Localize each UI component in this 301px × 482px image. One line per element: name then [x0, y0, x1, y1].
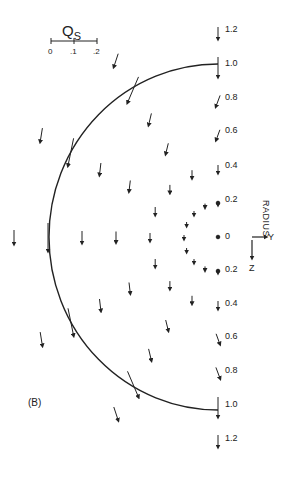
- radius-label: 1.0: [225, 400, 238, 409]
- scale-tick-1: .1: [70, 47, 77, 56]
- vector-arrow: [149, 113, 152, 125]
- radius-label: 0.2: [225, 265, 238, 274]
- vector-arrow: [40, 128, 42, 142]
- panel-label: (B): [28, 397, 41, 408]
- axis-y-label: Y: [268, 232, 274, 242]
- vector-arrow: [40, 332, 42, 346]
- vector-field-plot: [0, 0, 301, 482]
- vector-arrow: [114, 54, 118, 67]
- radius-label: 0.8: [225, 366, 238, 375]
- quantity-label: QS: [62, 22, 81, 42]
- vector-arrow: [68, 138, 74, 165]
- radius-label: 1.0: [225, 59, 238, 68]
- radius-label: 1.2: [225, 434, 238, 443]
- vector-arrow: [166, 143, 169, 154]
- vector-arrow: [216, 334, 220, 344]
- grid-point: [216, 235, 220, 239]
- scale-tick-0: 0: [48, 47, 52, 56]
- radius-label: 0.2: [225, 195, 238, 204]
- radius-label: 1.2: [225, 25, 238, 34]
- vector-arrow: [149, 349, 152, 361]
- grid-point: [216, 269, 220, 273]
- grid-point: [216, 201, 220, 205]
- vector-arrow: [216, 130, 220, 140]
- radius-label-center: 0: [225, 232, 230, 241]
- vector-arrow: [114, 407, 118, 420]
- vector-arrow: [166, 320, 169, 331]
- boundary-arc: [49, 64, 218, 410]
- vector-arrow: [216, 95, 220, 106]
- vector-arrow: [129, 181, 130, 192]
- vector-arrow: [68, 308, 74, 335]
- radius-label: 0.4: [225, 161, 238, 170]
- axis-indicator: [252, 237, 266, 258]
- scale-tick-2: .2: [93, 47, 100, 56]
- radius-label: 0.6: [225, 126, 238, 135]
- vector-arrow: [100, 163, 101, 175]
- vector-arrows: [14, 27, 220, 447]
- radius-label: 0.6: [225, 332, 238, 341]
- vector-arrow: [216, 367, 220, 378]
- radius-label: 0.8: [225, 93, 238, 102]
- vector-arrow: [100, 299, 101, 311]
- vector-arrow: [129, 283, 130, 294]
- axis-z-label: Z: [249, 263, 255, 273]
- radius-label: 0.4: [225, 299, 238, 308]
